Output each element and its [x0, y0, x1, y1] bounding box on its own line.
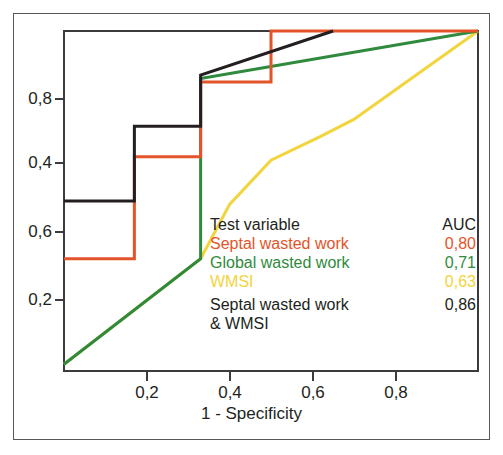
legend-row-combined: Septal wasted work 0,86	[210, 295, 476, 314]
x-axis-ticks	[147, 371, 396, 381]
legend-label-wmsi: WMSI	[210, 272, 254, 291]
y-axis-ticks	[55, 99, 64, 300]
y-tick-label-1: 0,8	[8, 89, 52, 109]
x-tick-label-1: 0,2	[123, 383, 171, 403]
x-tick-label-2: 0,4	[206, 383, 254, 403]
legend-auc-septal-wasted-work: 0,80	[445, 234, 476, 253]
legend-label-combined-continuation: & WMSI	[210, 314, 476, 333]
legend: Test variable AUC Septal wasted work 0,8…	[210, 215, 476, 333]
y-tick-label-3: 0,6	[8, 222, 52, 242]
legend-label-global-wasted-work: Global wasted work	[210, 253, 350, 272]
legend-row-septal: Septal wasted work 0,80	[210, 234, 476, 253]
legend-row-global: Global wasted work 0,71	[210, 253, 476, 272]
roc-figure: 0,8 0,4 0,6 0,2 0,2 0,4 0,6 0,8 1 - Spec…	[0, 0, 503, 455]
legend-header-test-variable: Test variable	[210, 215, 300, 234]
legend-auc-combined: 0,86	[445, 295, 476, 314]
legend-label-septal-wasted-work: Septal wasted work	[210, 234, 349, 253]
legend-header-row: Test variable AUC	[210, 215, 476, 234]
legend-row-wmsi: WMSI 0,63	[210, 272, 476, 291]
legend-header-auc: AUC	[442, 215, 476, 234]
y-tick-label-4: 0,2	[8, 290, 52, 310]
legend-auc-wmsi: 0,63	[445, 272, 476, 291]
legend-auc-global-wasted-work: 0,71	[445, 253, 476, 272]
y-tick-label-2: 0,4	[8, 153, 52, 173]
x-tick-label-3: 0,6	[289, 383, 337, 403]
roc-curve-septal-wasted-work-wmsi	[64, 31, 333, 201]
x-tick-label-4: 0,8	[372, 383, 420, 403]
legend-label-combined: Septal wasted work	[210, 295, 349, 314]
x-axis-title: 1 - Specificity	[0, 404, 503, 424]
